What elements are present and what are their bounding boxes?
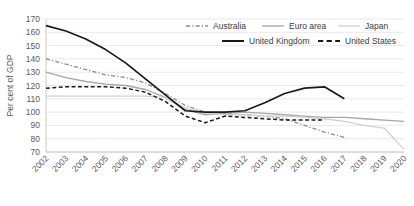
y-tick-90: 90	[31, 120, 41, 130]
x-tick-2008: 2008	[149, 153, 170, 174]
legend-label-united-states: United States	[345, 36, 396, 46]
x-tick-2004: 2004	[70, 153, 91, 174]
y-tick-140: 140	[26, 54, 40, 64]
x-tick-2018: 2018	[348, 153, 369, 174]
x-tick-2009: 2009	[169, 153, 190, 174]
y-tick-160: 160	[26, 27, 40, 37]
x-tick-2016: 2016	[308, 153, 329, 174]
y-tick-150: 150	[26, 41, 40, 51]
x-tick-2010: 2010	[189, 153, 210, 174]
y-axis-label: Per cent of GDP	[5, 54, 15, 116]
line-chart: 708090100110120130140150160170 200220032…	[0, 0, 414, 206]
legend-label-euro-area: Euro area	[289, 21, 327, 31]
y-axis-title: Per cent of GDP	[5, 54, 15, 116]
x-tick-2007: 2007	[129, 153, 150, 174]
y-tick-80: 80	[31, 134, 41, 144]
x-tick-2015: 2015	[289, 153, 310, 174]
y-tick-70: 70	[31, 147, 41, 157]
x-tick-2020: 2020	[388, 153, 409, 174]
legend-label-japan: Japan	[365, 21, 388, 31]
y-tick-130: 130	[26, 67, 40, 77]
x-tick-2012: 2012	[229, 153, 250, 174]
x-tick-2011: 2011	[209, 153, 229, 173]
chart-container: 708090100110120130140150160170 200220032…	[0, 0, 414, 206]
x-tick-2014: 2014	[269, 153, 290, 174]
x-tick-2013: 2013	[249, 153, 270, 174]
x-tick-2003: 2003	[50, 153, 71, 174]
series-line-japan	[46, 96, 404, 149]
y-axis-tick-labels: 708090100110120130140150160170	[26, 14, 40, 157]
y-tick-170: 170	[26, 14, 40, 24]
series-line-euro-area	[46, 72, 404, 121]
y-tick-120: 120	[26, 81, 40, 91]
x-tick-2005: 2005	[90, 153, 111, 174]
x-tick-2017: 2017	[328, 153, 349, 174]
x-tick-2006: 2006	[110, 153, 131, 174]
legend-label-australia: Australia	[213, 21, 246, 31]
x-tick-2019: 2019	[368, 153, 389, 174]
x-axis-tick-labels: 2002200320042005200620072008200920102011…	[30, 153, 409, 174]
y-tick-100: 100	[26, 107, 40, 117]
y-tick-110: 110	[26, 94, 40, 104]
legend-label-united-kingdom: United Kingdom	[249, 36, 309, 46]
chart-legend: AustraliaEuro areaJapanUnited KingdomUni…	[186, 21, 396, 46]
